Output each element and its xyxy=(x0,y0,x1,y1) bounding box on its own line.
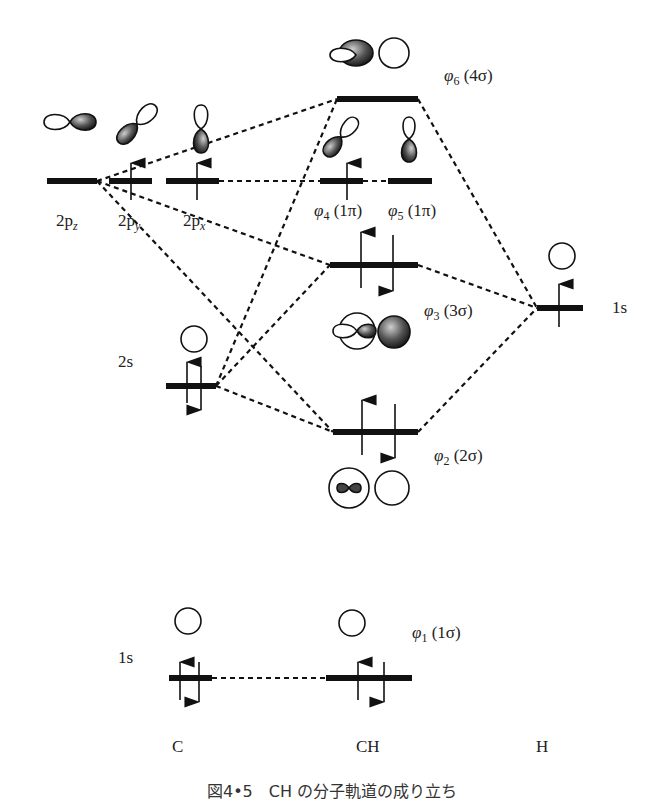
energy-levels xyxy=(47,99,583,678)
column-label-H: H xyxy=(536,737,548,757)
s-orbital-phi3-icon xyxy=(378,316,410,348)
column-label-CH: CH xyxy=(356,737,380,757)
label-phi6: φ6 (4σ) xyxy=(444,66,493,89)
label-C-1s: 1s xyxy=(118,648,133,668)
s-orbital-phi2-icon xyxy=(375,471,409,505)
label-2pz: 2pz xyxy=(56,211,78,234)
label-phi5: φ5 (1π) xyxy=(388,201,436,224)
s-orbital-phi1-icon xyxy=(339,610,365,636)
label-2s: 2s xyxy=(118,352,133,372)
p-orbital-horizontal-icon xyxy=(44,114,96,131)
label-phi3: φ3 (3σ) xyxy=(424,301,473,324)
antibonding-hybrid-orbital-icon xyxy=(330,40,373,66)
label-phi1: φ1 (1σ) xyxy=(412,623,461,646)
mo-diagram xyxy=(0,0,664,808)
s-orbital-C1s-icon xyxy=(175,608,201,634)
column-label-C: C xyxy=(172,737,183,757)
label-phi2: φ2 (2σ) xyxy=(434,446,483,469)
label-phi4: φ4 (1π) xyxy=(314,201,362,224)
s-orbital-phi6-icon xyxy=(379,38,409,68)
s-orbital-2s-icon xyxy=(181,326,207,352)
s-orbital-H-icon xyxy=(549,243,575,269)
sp-hybrid-phi3-icon xyxy=(333,313,376,349)
p-orbital-diagonal-icon xyxy=(113,100,160,147)
label-H-1s: 1s xyxy=(612,298,627,318)
sp-hybrid-phi2-icon xyxy=(329,468,369,508)
label-2px: 2px xyxy=(183,211,205,234)
label-2py: 2py xyxy=(118,211,140,234)
orbital-shapes xyxy=(44,38,575,636)
correlation-lines xyxy=(97,99,537,678)
p-orbital-vertical-icon xyxy=(194,105,209,153)
p-orbital-phi5-icon xyxy=(402,117,417,162)
figure-caption: 図4•5 CH の分子軌道の成り立ち xyxy=(0,778,664,802)
p-orbital-phi4-icon xyxy=(320,114,362,160)
